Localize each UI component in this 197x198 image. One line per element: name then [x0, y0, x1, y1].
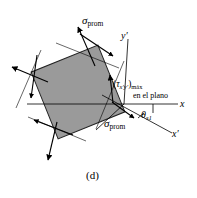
label-axis-xprime: x′ [172, 129, 179, 139]
label-axis-yprime: y′ [121, 31, 128, 41]
label-axis-x: x [180, 99, 184, 109]
label-tau-max-plane: en el plano [133, 92, 168, 100]
label-sigma-prom-bottom: σprom [104, 118, 125, 131]
figure-caption: (d) [86, 170, 99, 181]
label-theta: θs1 [141, 110, 152, 122]
axis-yprime-line [124, 39, 128, 104]
figure-container: σprom y′ (τx′y′)máx en el plano x θs1 σp… [0, 0, 197, 198]
sigma-subscript-top: prom [87, 19, 103, 28]
sigma-subscript-bottom: prom [109, 122, 125, 131]
label-tau-max: (τx′y′)máx [113, 80, 142, 90]
theta-subscript: s1 [146, 114, 152, 121]
tau-subscript-axes: x′y′ [120, 83, 129, 90]
label-sigma-prom-top: σprom [82, 15, 103, 28]
tau-subscript-max: máx [131, 83, 142, 90]
